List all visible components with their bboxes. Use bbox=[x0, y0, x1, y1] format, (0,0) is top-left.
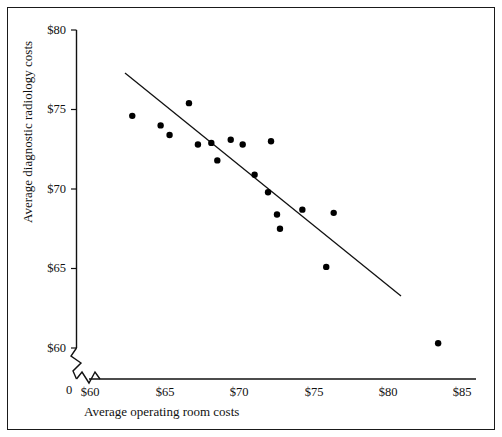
data-point bbox=[251, 171, 257, 177]
data-point bbox=[186, 100, 192, 106]
y-tick-label-70: $70 bbox=[34, 182, 66, 197]
scatter-plot-figure: $80 $75 $70 $65 $60 0 $60 $65 $70 $75 $8… bbox=[0, 0, 502, 437]
x-tick-label-85: $85 bbox=[442, 385, 482, 400]
x-tick-label-65: $65 bbox=[145, 385, 185, 400]
y-tick-label-80: $80 bbox=[34, 23, 66, 38]
data-point bbox=[195, 141, 201, 147]
data-point bbox=[268, 138, 274, 144]
regression-line bbox=[125, 73, 401, 296]
y-tick-marks bbox=[71, 30, 77, 348]
data-point bbox=[330, 210, 336, 216]
y-tick-label-60: $60 bbox=[34, 341, 66, 356]
x-axis-break-icon bbox=[77, 372, 101, 383]
data-point bbox=[166, 132, 172, 138]
data-point bbox=[277, 226, 283, 232]
data-point bbox=[214, 157, 220, 163]
data-point bbox=[265, 189, 271, 195]
plot-canvas bbox=[0, 0, 502, 437]
y-axis-title: Average diagnostic radiology costs bbox=[20, 41, 36, 223]
x-tick-label-80: $80 bbox=[368, 385, 408, 400]
y-tick-label-65: $65 bbox=[34, 261, 66, 276]
data-point bbox=[323, 264, 329, 270]
x-axis-title: Average operating room costs bbox=[84, 404, 239, 420]
y-tick-label-75: $75 bbox=[34, 102, 66, 117]
x-tick-label-70: $70 bbox=[219, 385, 259, 400]
data-point bbox=[157, 122, 163, 128]
data-point bbox=[208, 140, 214, 146]
data-point bbox=[239, 141, 245, 147]
x-tick-label-75: $75 bbox=[294, 385, 334, 400]
data-point-group bbox=[129, 100, 441, 346]
data-point bbox=[274, 211, 280, 217]
x-tick-label-60: $60 bbox=[70, 385, 110, 400]
data-point bbox=[299, 206, 305, 212]
data-point bbox=[129, 113, 135, 119]
data-point bbox=[435, 340, 441, 346]
data-point bbox=[228, 137, 234, 143]
